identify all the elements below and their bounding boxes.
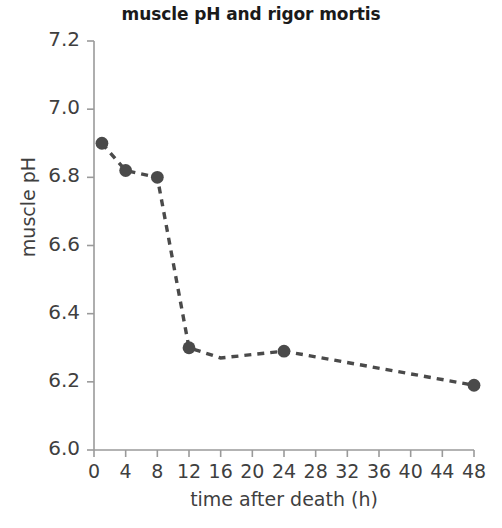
data-point <box>468 379 481 392</box>
chart-container: muscle pH and rigor mortis 6.06.26.46.66… <box>0 0 502 528</box>
x-tick-label: 32 <box>330 460 364 482</box>
data-point-markers <box>96 137 481 392</box>
tick-marks <box>87 41 474 457</box>
x-tick-label: 40 <box>394 460 428 482</box>
x-tick-label: 24 <box>267 460 301 482</box>
y-tick-label: 7.0 <box>10 95 80 119</box>
y-tick-label: 6.4 <box>10 300 80 324</box>
data-point <box>151 171 164 184</box>
x-tick-label: 44 <box>425 460 459 482</box>
x-axis-title: time after death (h) <box>94 488 474 510</box>
x-tick-label: 28 <box>299 460 333 482</box>
x-tick-label: 12 <box>172 460 206 482</box>
x-tick-label: 0 <box>77 460 111 482</box>
x-tick-label: 20 <box>235 460 269 482</box>
data-point <box>183 341 196 354</box>
x-tick-label: 16 <box>204 460 238 482</box>
x-tick-label: 8 <box>140 460 174 482</box>
data-point <box>96 137 109 150</box>
axes <box>94 41 474 450</box>
x-tick-label: 48 <box>457 460 491 482</box>
y-tick-label: 6.2 <box>10 368 80 392</box>
y-tick-label: 7.2 <box>10 27 80 51</box>
data-point <box>119 164 132 177</box>
data-point <box>278 345 291 358</box>
x-tick-label: 36 <box>362 460 396 482</box>
y-axis-title: muscle pH <box>17 117 39 297</box>
x-tick-label: 4 <box>109 460 143 482</box>
y-tick-label: 6.0 <box>10 436 80 460</box>
